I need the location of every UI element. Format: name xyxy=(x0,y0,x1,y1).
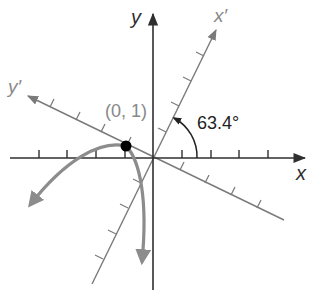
vertex-point xyxy=(121,141,132,152)
y-prime-axis-label: y′ xyxy=(6,76,23,97)
y-axis-label: y xyxy=(129,6,142,28)
rotated-axes-diagram: y x x′ y′ (0, 1) 63.4° xyxy=(0,0,317,295)
x-axis-label: x xyxy=(295,162,307,184)
x-prime-axis-label: x′ xyxy=(213,5,229,26)
parabola-curve xyxy=(30,145,144,262)
angle-label: 63.4° xyxy=(197,113,239,133)
rotation-angle-arc xyxy=(174,118,197,158)
point-label: (0, 1) xyxy=(105,101,147,121)
